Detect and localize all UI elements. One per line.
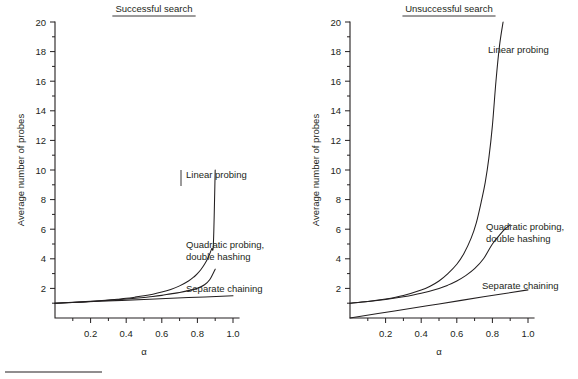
y-tick-label: 8 [41,194,46,205]
y-tick-label: 12 [35,135,46,146]
x-tick-label: 0.8 [191,328,204,339]
x-tick-label: 1.0 [521,328,534,339]
chart-title: Unsuccessful search [405,3,493,14]
series-label-2: Separate chaining [186,283,263,294]
series-label-0: Linear probing [186,169,247,180]
y-tick-label: 4 [41,253,46,264]
axis-lines [350,22,534,318]
series-curve-2 [350,290,528,318]
series-label-1: Quadratic probing,double hashing [486,221,564,244]
y-tick-label: 6 [336,224,341,235]
y-tick-label: 18 [330,46,341,57]
series-label-2: Separate chaining [482,280,559,291]
series-label-line1: Quadratic probing, [486,221,564,232]
y-tick-label: 2 [41,283,46,294]
series-label-0: Linear probing [488,44,549,55]
y-axis-label: Average number of probes [310,114,321,227]
series-label-line2: double hashing [486,233,550,244]
x-tick-label: 0.6 [155,328,168,339]
figure-root: 24681012141618200.20.40.60.81.0αAverage … [0,0,578,379]
x-tick-label: 0.4 [120,328,133,339]
series-label-1: Quadratic probing,double hashing [186,239,264,262]
chart-unsuccessful-search: 24681012141618200.20.40.60.81.0αAverage … [310,3,564,357]
series-label-line1: Quadratic probing, [186,239,264,250]
y-tick-label: 12 [330,135,341,146]
x-axis-label: α [141,346,147,357]
x-tick-label: 0.8 [486,328,499,339]
y-tick-label: 2 [336,283,341,294]
y-tick-label: 20 [330,17,341,28]
y-tick-label: 8 [336,194,341,205]
y-tick-label: 4 [336,253,341,264]
chart-successful-search: 24681012141618200.20.40.60.81.0αAverage … [15,3,264,357]
y-tick-label: 10 [35,165,46,176]
y-tick-label: 16 [35,76,46,87]
series-label-line2: double hashing [186,251,250,262]
y-axis-label: Average number of probes [15,114,26,227]
y-tick-label: 18 [35,46,46,57]
x-axis-label: α [436,346,442,357]
y-tick-label: 6 [41,224,46,235]
x-tick-label: 0.2 [379,328,392,339]
y-tick-label: 16 [330,76,341,87]
y-tick-label: 20 [35,17,46,28]
x-tick-label: 0.2 [84,328,97,339]
x-tick-label: 0.4 [415,328,428,339]
y-tick-label: 10 [330,165,341,176]
chart-title: Successful search [115,3,192,14]
series-curve-0 [350,22,503,303]
x-tick-label: 0.6 [450,328,463,339]
x-tick-label: 1.0 [226,328,239,339]
y-tick-label: 14 [35,105,46,116]
y-tick-label: 14 [330,105,341,116]
